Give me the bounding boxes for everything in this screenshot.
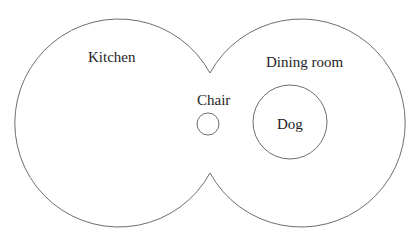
rooms-outline	[15, 19, 405, 227]
dog-label: Dog	[277, 116, 303, 132]
chair-label: Chair	[197, 92, 230, 108]
chair-circle	[197, 113, 219, 135]
dining-room-label: Dining room	[266, 54, 343, 70]
euler-diagram: Kitchen Dining room Chair Dog	[0, 0, 413, 241]
kitchen-label: Kitchen	[88, 49, 136, 65]
